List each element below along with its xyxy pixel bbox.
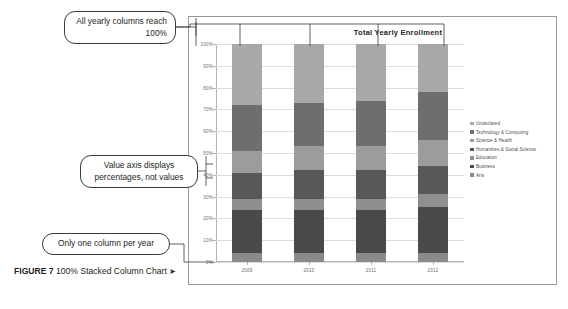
legend-item[interactable]: Arts (470, 173, 552, 178)
bar-segment[interactable] (294, 210, 324, 254)
legend-item-label: Education (476, 155, 497, 160)
callout-value-axis-percent-text: Value axis displays percentages, not val… (81, 160, 197, 182)
bar-segment[interactable] (232, 105, 262, 151)
bar-segment[interactable] (356, 101, 386, 147)
figure-page: Total Yearly Enrollment 0%10%20%30%40%50… (0, 0, 568, 309)
legend-item-label: Humanities & Social Science (476, 147, 536, 152)
y-axis-tick-label: 30% (203, 194, 213, 199)
legend-item[interactable]: Business (470, 164, 552, 169)
stacked-bar[interactable] (356, 44, 386, 262)
legend-swatch-icon (470, 148, 474, 152)
bar-segment[interactable] (294, 103, 324, 147)
figure-caption-text: 100% Stacked Column Chart (54, 266, 170, 276)
legend-item-label: Technology & Computing (476, 130, 528, 135)
callout-one-column-per-year: Only one column per year (42, 233, 170, 255)
legend-swatch-icon (470, 156, 474, 160)
bar-segment[interactable] (294, 146, 324, 170)
figure-caption: FIGURE 7 100% Stacked Column Chart ➤ (14, 265, 186, 278)
bar-segment[interactable] (356, 253, 386, 262)
x-axis-tick-mark (247, 262, 248, 265)
bar-segment[interactable] (418, 140, 448, 166)
y-axis-tick-mark (213, 262, 216, 263)
y-axis-tick-label: 50% (203, 151, 213, 156)
x-axis-tick-label: 2011 (340, 268, 402, 273)
legend-item[interactable]: Humanities & Social Science (470, 147, 552, 152)
x-axis-tick-label: 2010 (278, 268, 340, 273)
bar-column: 2009 (216, 44, 278, 262)
stacked-bar[interactable] (418, 44, 448, 262)
legend-swatch-icon (470, 139, 474, 143)
bar-column: 2010 (278, 44, 340, 262)
y-axis-tick-label: 90% (203, 63, 213, 68)
bar-segment[interactable] (356, 170, 386, 198)
bar-segment[interactable] (418, 166, 448, 194)
bar-segment[interactable] (232, 44, 262, 105)
stacked-bar[interactable] (294, 44, 324, 262)
bar-segment[interactable] (294, 199, 324, 210)
bar-segment[interactable] (232, 151, 262, 173)
legend-item[interactable]: Education (470, 155, 552, 160)
legend-swatch-icon (470, 173, 474, 177)
bar-segment[interactable] (418, 207, 448, 253)
legend-item-label: Undeclared (476, 121, 500, 126)
bar-segment[interactable] (418, 253, 448, 262)
bar-column: 2012 (402, 44, 464, 262)
x-axis-tick-label: 2012 (402, 268, 464, 273)
bar-segment[interactable] (418, 92, 448, 140)
y-axis-tick-label: 100% (200, 42, 213, 47)
bar-segment[interactable] (356, 210, 386, 254)
y-axis-tick-label: 10% (203, 238, 213, 243)
y-axis-tick-label: 80% (203, 85, 213, 90)
figure-caption-label: FIGURE 7 (14, 266, 54, 276)
x-axis-tick-mark (371, 262, 372, 265)
legend-swatch-icon (470, 165, 474, 169)
chart-container: Total Yearly Enrollment 0%10%20%30%40%50… (188, 16, 555, 283)
legend-swatch-icon (470, 130, 474, 134)
callout-one-column-per-year-text: Only one column per year (43, 238, 169, 249)
legend-item-label: Arts (476, 173, 484, 178)
callout-all-columns-100-text: All yearly columns reach 100% (65, 16, 175, 38)
bar-segment[interactable] (232, 199, 262, 210)
stacked-bar[interactable] (232, 44, 262, 262)
bar-segment[interactable] (418, 194, 448, 207)
bar-segment[interactable] (294, 253, 324, 262)
x-axis-tick-label: 2009 (216, 268, 278, 273)
legend-swatch-icon (470, 122, 474, 126)
bar-segment[interactable] (294, 170, 324, 198)
x-axis-tick-mark (433, 262, 434, 265)
caption-arrow-icon: ➤ (169, 267, 176, 276)
y-axis-tick-label: 70% (203, 107, 213, 112)
bar-segment[interactable] (418, 44, 448, 92)
bar-series-group: 2009201020112012 (216, 44, 464, 262)
legend-item-label: Business (476, 164, 495, 169)
bar-segment[interactable] (232, 210, 262, 254)
bar-column: 2011 (340, 44, 402, 262)
plot-area: 0%10%20%30%40%50%60%70%80%90%100% 200920… (216, 44, 464, 262)
y-axis-tick-label: 40% (203, 172, 213, 177)
y-axis-tick-label: 20% (203, 216, 213, 221)
chart-title: Total Yearly Enrollment (308, 28, 488, 37)
bar-segment[interactable] (356, 44, 386, 101)
callout-value-axis-percent: Value axis displays percentages, not val… (80, 155, 198, 188)
legend-item[interactable]: Technology & Computing (470, 130, 552, 135)
callout-all-columns-100: All yearly columns reach 100% (64, 11, 176, 44)
y-axis-tick-label: 0% (206, 260, 213, 265)
x-axis-tick-mark (309, 262, 310, 265)
bar-segment[interactable] (232, 253, 262, 262)
bar-segment[interactable] (356, 146, 386, 170)
legend-item[interactable]: Science & Health (470, 138, 552, 143)
bar-segment[interactable] (356, 199, 386, 210)
bar-segment[interactable] (232, 173, 262, 199)
legend-item-label: Science & Health (476, 138, 512, 143)
bar-segment[interactable] (294, 44, 324, 103)
chart-legend: UndeclaredTechnology & ComputingScience … (470, 121, 552, 181)
legend-item[interactable]: Undeclared (470, 121, 552, 126)
gridline (216, 262, 464, 263)
y-axis-tick-label: 60% (203, 129, 213, 134)
